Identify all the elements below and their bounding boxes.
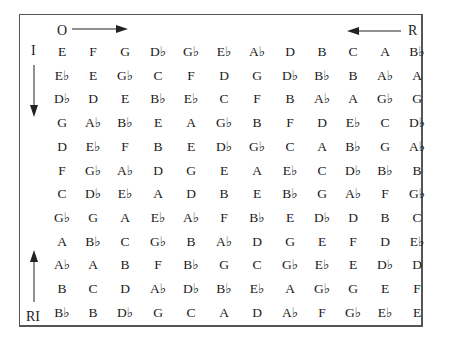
matrix-cell: B — [242, 116, 272, 130]
matrix-cell: C — [402, 211, 432, 225]
matrix-cell: G♭ — [275, 258, 305, 272]
matrix-cell: G — [307, 187, 337, 201]
matrix-cell: E♭ — [370, 306, 400, 320]
matrix-cell: F — [242, 92, 272, 106]
matrix-cell: D — [338, 211, 368, 225]
matrix-cell: A — [78, 258, 108, 272]
matrix-cell: A — [176, 116, 206, 130]
matrix-cell: G♭ — [338, 306, 368, 320]
matrix-cell: G — [209, 258, 239, 272]
matrix-cell: E♭ — [78, 140, 108, 154]
matrix-cell: F — [307, 306, 337, 320]
matrix-cell: F — [370, 187, 400, 201]
matrix-cell: C — [110, 235, 140, 249]
matrix-cell: D — [242, 306, 272, 320]
matrix-cell: B♭ — [338, 140, 368, 154]
matrix-cell: A — [402, 69, 432, 83]
matrix-cell: G♭ — [242, 140, 272, 154]
matrix-cell: A♭ — [209, 235, 239, 249]
matrix-cell: D♭ — [78, 187, 108, 201]
matrix-cell: F — [47, 164, 77, 178]
matrix-cell: F — [402, 282, 432, 296]
matrix-cell: F — [338, 235, 368, 249]
matrix-cell: E — [242, 187, 272, 201]
arrow-up-icon — [29, 250, 39, 302]
matrix-cell: B — [402, 164, 432, 178]
matrix-cell: D♭ — [402, 116, 432, 130]
matrix-cell: A♭ — [370, 69, 400, 83]
matrix-cell: C — [275, 140, 305, 154]
matrix-cell: B — [110, 258, 140, 272]
matrix-cell: D — [143, 164, 173, 178]
matrix-cell: G♭ — [209, 116, 239, 130]
label-retrograde-inversion: RI — [26, 310, 40, 324]
matrix-cell: D♭ — [209, 140, 239, 154]
matrix-cell: F — [176, 69, 206, 83]
matrix-cell: E — [275, 211, 305, 225]
matrix-cell: G — [370, 140, 400, 154]
matrix-cell: F — [110, 140, 140, 154]
matrix-cell: D♭ — [338, 164, 368, 178]
matrix-cell: D♭ — [370, 258, 400, 272]
matrix-cell: C — [242, 258, 272, 272]
matrix-cell: A — [307, 140, 337, 154]
matrix-cell: G♭ — [307, 282, 337, 296]
matrix-cell: A — [275, 282, 305, 296]
matrix-cell: D♭ — [47, 92, 77, 106]
matrix-cell: E♭ — [47, 69, 77, 83]
matrix-cell: A♭ — [307, 92, 337, 106]
matrix-cell: C — [338, 45, 368, 59]
matrix-cell: B♭ — [242, 211, 272, 225]
matrix-cell: B — [209, 187, 239, 201]
arrow-left-icon — [347, 26, 403, 36]
matrix-cell: E — [110, 92, 140, 106]
matrix-cell: E — [78, 69, 108, 83]
matrix-cell: G — [275, 235, 305, 249]
matrix-cell: C — [176, 306, 206, 320]
matrix-cell: B♭ — [307, 69, 337, 83]
matrix-cell: A — [47, 235, 77, 249]
matrix-cell: B — [143, 140, 173, 154]
matrix-cell: A♭ — [78, 116, 108, 130]
matrix-cell: E♭ — [402, 235, 432, 249]
arrow-down-icon — [29, 65, 39, 117]
matrix-cell: F — [209, 211, 239, 225]
matrix-cell: A♭ — [110, 164, 140, 178]
matrix-cell: G♭ — [370, 92, 400, 106]
label-original: O — [57, 24, 67, 38]
matrix-cell: F — [275, 116, 305, 130]
matrix-cell: A♭ — [143, 282, 173, 296]
matrix-cell: C — [78, 282, 108, 296]
matrix-cell: E — [143, 116, 173, 130]
matrix-cell: D — [209, 69, 239, 83]
matrix-cell: C — [209, 92, 239, 106]
matrix-cell: B♭ — [47, 306, 77, 320]
matrix-cell: G — [110, 45, 140, 59]
matrix-cell: G♭ — [110, 69, 140, 83]
matrix-cell: B♭ — [78, 235, 108, 249]
matrix-cell: C — [47, 187, 77, 201]
matrix-cell: E♭ — [338, 116, 368, 130]
matrix-cell: G♭ — [176, 45, 206, 59]
matrix-cell: B — [176, 235, 206, 249]
matrix-cell: F — [78, 45, 108, 59]
matrix-cell: D♭ — [143, 45, 173, 59]
matrix-cell: E♭ — [209, 45, 239, 59]
matrix-cell: A — [209, 306, 239, 320]
matrix-cell: E♭ — [307, 258, 337, 272]
matrix-cell: E — [402, 306, 432, 320]
matrix-cell: B — [338, 69, 368, 83]
matrix-cell: C — [370, 116, 400, 130]
matrix-cell: E♭ — [110, 187, 140, 201]
matrix-cell: A♭ — [338, 187, 368, 201]
matrix-cell: G — [242, 69, 272, 83]
matrix-cell: E — [370, 282, 400, 296]
matrix-cell: B — [47, 282, 77, 296]
matrix-cell: E — [338, 258, 368, 272]
matrix-cell: G — [47, 116, 77, 130]
matrix-cell: G♭ — [47, 211, 77, 225]
matrix-cell: D — [176, 187, 206, 201]
label-retrograde: R — [408, 24, 417, 38]
label-inversion: I — [31, 44, 36, 58]
matrix-cell: D — [402, 258, 432, 272]
